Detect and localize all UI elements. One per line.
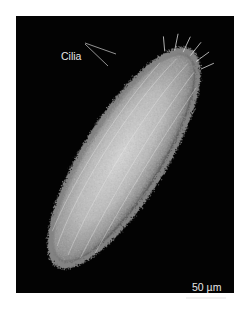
micrograph-panel: Cilia 50 µm bbox=[16, 16, 234, 293]
cilia-label: Cilia bbox=[61, 51, 81, 62]
scale-bar bbox=[186, 297, 226, 299]
cell-illustration bbox=[16, 16, 234, 293]
organism bbox=[21, 18, 234, 289]
cilia-leader-lines bbox=[85, 43, 116, 66]
scale-bar-label: 50 µm bbox=[192, 282, 221, 293]
